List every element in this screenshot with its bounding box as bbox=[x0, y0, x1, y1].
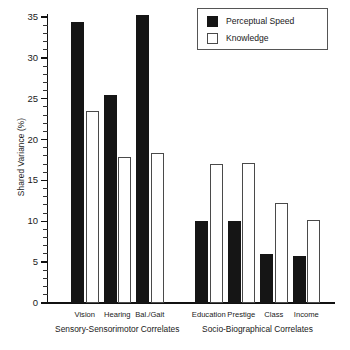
bar-prestige-knowledge bbox=[242, 163, 255, 303]
bar-income-perceptual-speed bbox=[293, 256, 306, 303]
y-axis-title: Shared Variance (%) bbox=[16, 92, 26, 222]
x-group-label: Socio-Biographical Correlates bbox=[168, 324, 348, 334]
bar-income-knowledge bbox=[307, 220, 320, 303]
bar-education-perceptual-speed bbox=[195, 221, 208, 303]
y-tick-label: 0 bbox=[12, 298, 38, 308]
x-tick-label: Bal./Gait bbox=[120, 310, 180, 319]
bar-hearing-knowledge bbox=[118, 157, 131, 303]
bar-vision-knowledge bbox=[86, 111, 99, 303]
x-tick-label: Income bbox=[276, 310, 336, 319]
bar-bal-gait-knowledge bbox=[151, 153, 164, 303]
y-tick-label: 30 bbox=[12, 53, 38, 63]
legend-swatch-dark-icon bbox=[207, 16, 218, 27]
y-tick-label: 5 bbox=[12, 257, 38, 267]
bar-vision-perceptual-speed bbox=[71, 22, 84, 303]
bars-layer bbox=[47, 10, 335, 303]
legend-swatch-light-icon bbox=[207, 33, 218, 44]
bar-bal-gait-perceptual-speed bbox=[136, 15, 149, 303]
bar-class-knowledge bbox=[275, 203, 288, 304]
legend-label: Knowledge bbox=[226, 33, 269, 44]
bar-education-knowledge bbox=[210, 164, 223, 303]
bar-class-perceptual-speed bbox=[260, 254, 273, 303]
chart-figure: 05101520253035 Shared Variance (%) Visio… bbox=[0, 0, 350, 350]
chart-legend: Perceptual Speed Knowledge bbox=[197, 8, 328, 50]
bar-prestige-perceptual-speed bbox=[228, 221, 241, 303]
y-tick-label: 35 bbox=[12, 12, 38, 22]
bar-hearing-perceptual-speed bbox=[104, 95, 117, 303]
legend-label: Perceptual Speed bbox=[226, 16, 294, 27]
